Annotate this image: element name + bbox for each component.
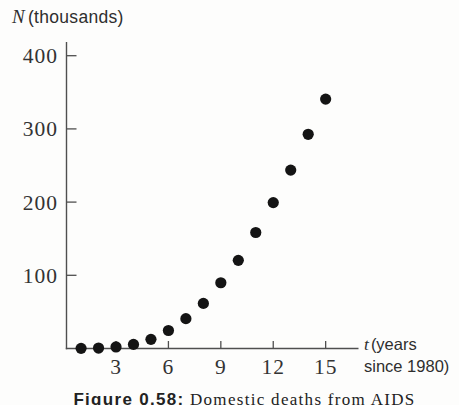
y-tick-label: 300 xyxy=(23,117,58,141)
data-point xyxy=(145,334,156,345)
data-point xyxy=(75,343,86,354)
data-point xyxy=(268,197,279,208)
x-tick-label: 15 xyxy=(314,355,338,379)
data-point xyxy=(320,94,331,105)
figure-caption-label: Figure 0.58: xyxy=(73,390,184,405)
y-tick-label: 100 xyxy=(23,264,58,288)
x-axis-unit-line1: (years xyxy=(371,335,417,353)
y-tick-label: 200 xyxy=(23,191,58,215)
y-tick-label: 400 xyxy=(23,44,58,68)
x-tick-label: 12 xyxy=(261,355,285,379)
figure-caption-text: Domestic deaths from AIDS xyxy=(190,390,416,405)
data-point xyxy=(285,165,296,176)
data-point xyxy=(198,298,209,309)
data-point xyxy=(110,341,121,352)
figure-caption: Figure 0.58: Domestic deaths from AIDS xyxy=(0,390,459,405)
data-point xyxy=(215,277,226,288)
x-tick-label: 9 xyxy=(215,355,227,379)
x-axis-symbol: t xyxy=(364,334,369,354)
data-point xyxy=(163,325,174,336)
x-tick-label: 6 xyxy=(163,355,175,379)
x-axis-title: t(yearssince 1980) xyxy=(364,333,449,378)
data-point xyxy=(250,227,261,238)
data-point xyxy=(128,339,139,350)
data-point xyxy=(303,129,314,140)
x-tick-label: 3 xyxy=(110,355,122,379)
data-point xyxy=(180,313,191,324)
data-point xyxy=(233,255,244,266)
data-point xyxy=(93,342,104,353)
x-axis-unit-line2: since 1980) xyxy=(364,357,449,375)
textbook-figure: N(thousands) 1002003004003691215 t(years… xyxy=(0,0,459,405)
